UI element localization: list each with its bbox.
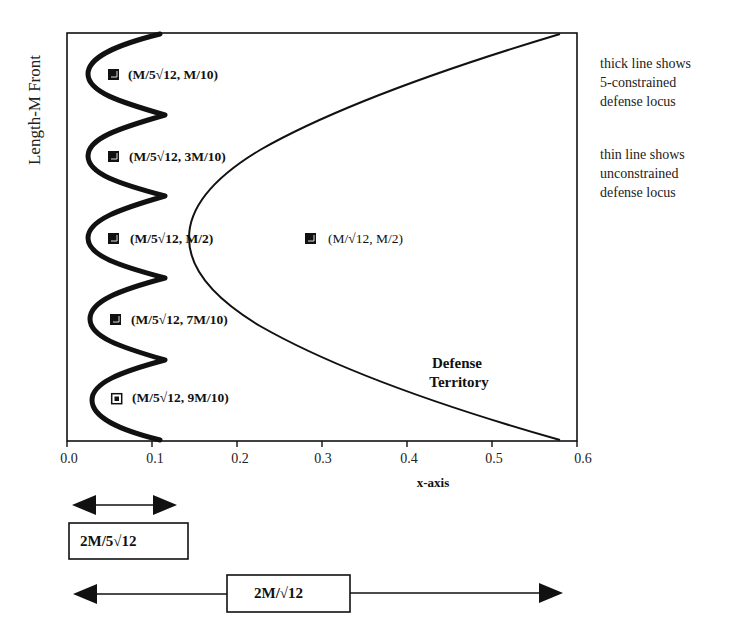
point-label: (M/5√12, 3M/10) bbox=[129, 149, 226, 164]
legend-line: thick line shows bbox=[600, 54, 691, 73]
x-tick-label: 0.4 bbox=[400, 451, 418, 466]
x-tick-label: 0.5 bbox=[485, 451, 503, 466]
legend-line: defense locus bbox=[600, 183, 685, 202]
point-label: (M/5√12, M/2) bbox=[130, 231, 213, 246]
point-label: (M/√12, M/2) bbox=[328, 231, 403, 246]
x-tick-label: 0.2 bbox=[231, 451, 249, 466]
legend-line: thin line shows bbox=[600, 145, 685, 164]
x-tick-label: 0.0 bbox=[60, 451, 78, 466]
small-span-label: 2M/5√12 bbox=[80, 533, 137, 549]
x-axis-tick-labels: 0.0 0.1 0.2 0.3 0.4 0.5 0.6 bbox=[60, 451, 592, 466]
x-tick-label: 0.1 bbox=[146, 451, 164, 466]
point-marker bbox=[108, 151, 119, 162]
legend-thick-note: thick line shows 5-constrained defense l… bbox=[600, 54, 691, 111]
point-label: (M/5√12, 7M/10) bbox=[131, 312, 228, 327]
defense-territory-label: Territory bbox=[429, 374, 489, 390]
point-label: (M/5√12, 9M/10) bbox=[132, 390, 229, 405]
x-tick-label: 0.3 bbox=[314, 451, 332, 466]
x-tick-label: 0.6 bbox=[574, 451, 592, 466]
point-marker-hollow bbox=[112, 394, 122, 404]
y-axis-label: Length-M Front bbox=[25, 55, 44, 165]
defense-territory-label: Defense bbox=[432, 355, 482, 371]
x-axis-label: x-axis bbox=[417, 475, 450, 490]
legend-line: defense locus bbox=[600, 92, 691, 111]
point-marker bbox=[108, 233, 119, 244]
point-label: (M/5√12, M/10) bbox=[128, 67, 218, 82]
large-span-label: 2M/√12 bbox=[254, 585, 303, 601]
legend-line: unconstrained bbox=[600, 164, 685, 183]
point-marker bbox=[110, 314, 121, 325]
point-marker bbox=[305, 233, 316, 244]
small-span-arrow bbox=[72, 495, 177, 515]
legend-thin-note: thin line shows unconstrained defense lo… bbox=[600, 145, 685, 202]
point-marker bbox=[108, 69, 119, 80]
legend-line: 5-constrained bbox=[600, 73, 691, 92]
x-axis-ticks bbox=[67, 441, 577, 447]
